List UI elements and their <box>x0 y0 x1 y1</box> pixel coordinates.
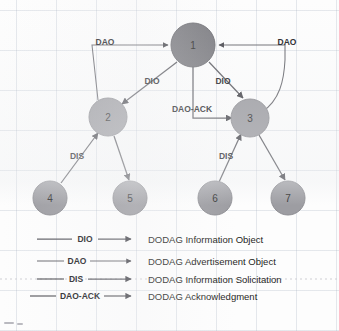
edge-2-to-1-dao <box>92 45 168 100</box>
node-1[interactable]: 1 <box>171 23 215 67</box>
node-1-label: 1 <box>190 40 196 51</box>
scan-artifacts <box>4 322 23 325</box>
edge-3-to-7 <box>259 135 285 180</box>
legend-item-dio: DIO DODAG Information Object <box>37 234 263 245</box>
legend-item-dao: DAO DODAG Advertisement Object <box>37 256 276 267</box>
legend-code-dao-ack: DAO-ACK <box>60 291 101 301</box>
node-3-label: 3 <box>247 113 253 124</box>
node-6[interactable]: 6 <box>198 181 232 215</box>
node-7[interactable]: 7 <box>271 181 305 215</box>
edge-label-dao-left: DAO <box>96 37 115 47</box>
legend-desc-dao: DODAG Advertisement Object <box>148 256 276 267</box>
node-5[interactable]: 5 <box>113 181 147 215</box>
edge-label-dio-left: DIO <box>144 76 160 86</box>
legend-item-dis: DIS DODAG Information Solicitation <box>37 274 282 285</box>
legend-desc-dao-ack: DODAG Acknowledgment <box>148 291 258 302</box>
node-2-label: 2 <box>105 112 111 123</box>
node-4-label: 4 <box>47 193 53 204</box>
node-7-label: 7 <box>285 193 291 204</box>
legend-desc-dio: DODAG Information Object <box>148 234 263 245</box>
node-3[interactable]: 3 <box>231 99 269 137</box>
diagram-canvas: 1 2 3 4 5 6 7 DAO DAO DIO DI <box>0 0 339 331</box>
legend-code-dis: DIS <box>69 274 84 284</box>
node-5-label: 5 <box>127 193 133 204</box>
node-6-label: 6 <box>212 193 218 204</box>
node-4[interactable]: 4 <box>33 181 67 215</box>
edge-label-dao-right: DAO <box>278 37 297 47</box>
edge-2-to-5 <box>114 136 129 180</box>
legend-code-dio: DIO <box>77 234 93 244</box>
node-2[interactable]: 2 <box>89 98 127 136</box>
edge-label-dis-right: DIS <box>219 151 234 161</box>
edge-label-dio-right: DIO <box>215 76 231 86</box>
legend-item-dao-ack: DAO-ACK DODAG Acknowledgment <box>30 291 258 302</box>
legend-code-dao: DAO <box>68 256 87 266</box>
topology-svg: 1 2 3 4 5 6 7 DAO DAO DIO DI <box>0 0 339 331</box>
legend: DIO DODAG Information Object DAO DODAG A… <box>0 234 339 302</box>
edge-label-dis-left: DIS <box>70 151 85 161</box>
legend-desc-dis: DODAG Information Solicitation <box>148 274 282 285</box>
edge-label-dao-ack: DAO-ACK <box>172 104 213 114</box>
